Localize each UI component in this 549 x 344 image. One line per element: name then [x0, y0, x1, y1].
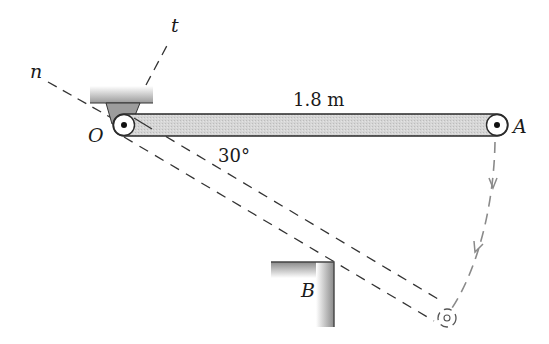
label-A: A: [511, 115, 527, 137]
bar-OA: [113, 114, 508, 136]
pivot-O: [114, 115, 135, 136]
label-O: O: [88, 124, 104, 146]
length-label: 1.8 m: [293, 89, 344, 110]
label-n: n: [30, 60, 42, 82]
path-of-A: [452, 142, 497, 308]
displaced-bar-outline: [124, 118, 438, 321]
pivot-A: [487, 115, 508, 136]
angle-label: 30°: [218, 145, 250, 166]
label-B: B: [300, 279, 315, 301]
diagram-canvas: n t O A 1.8 m 30° B: [0, 0, 549, 344]
label-t: t: [171, 14, 179, 36]
displaced-end-pivot: [438, 309, 456, 327]
